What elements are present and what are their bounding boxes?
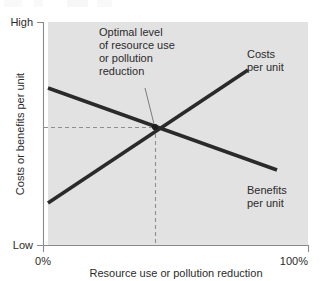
benefits-label-line-2: per unit — [247, 197, 284, 209]
annotation-line-3: or pollution — [99, 52, 153, 64]
annotation-line-1: Optimal level — [99, 26, 163, 38]
costs-benefits-line-chart: High Low 0% 100% Costs or benefits per u… — [0, 0, 325, 281]
y-axis-title: Costs or benefits per unit — [14, 73, 26, 195]
costs-label-line-2: per unit — [247, 61, 284, 73]
x-axis-tick-label-0: 0% — [35, 255, 51, 267]
x-axis-tick-label-100: 100% — [280, 255, 308, 267]
y-axis-tick-label-high: High — [10, 16, 33, 28]
costs-label-line-1: Costs — [247, 48, 276, 60]
chart-figure: High Low 0% 100% Costs or benefits per u… — [0, 0, 325, 281]
y-axis-tick-label-low: Low — [13, 239, 33, 251]
annotation-line-2: of resource use — [99, 39, 175, 51]
cropped-caption-artifact — [4, 0, 154, 7]
benefits-label-line-1: Benefits — [247, 184, 287, 196]
y-axis-line — [37, 23, 44, 246]
annotation-line-4: reduction — [99, 65, 144, 77]
x-axis-line — [44, 246, 309, 253]
intersection-point-marker — [152, 124, 158, 130]
x-axis-title: Resource use or pollution reduction — [89, 267, 262, 279]
benefits-per-unit-label: Benefits per unit — [247, 184, 287, 209]
